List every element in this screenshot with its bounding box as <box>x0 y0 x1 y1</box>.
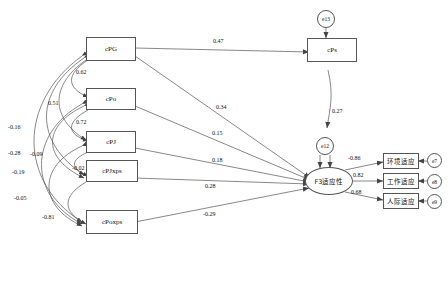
error-e8-label: e8 <box>432 179 437 185</box>
path-cPoxps-F3 <box>135 188 309 222</box>
label-cov-cPo-cPJ: 0.72 <box>76 119 87 125</box>
label-cov-cPJ-cPoxps: -0.05 <box>14 195 27 201</box>
label-cov-cPG-cPo: 0.62 <box>76 69 87 75</box>
loading-F3-ind1 <box>345 162 383 170</box>
label-path-cPG-F3: 0.34 <box>216 104 227 110</box>
label-cov-cPG-cPJxps: -0.16 <box>8 124 21 130</box>
label-path-cPJ-F3: 0.18 <box>212 157 223 163</box>
label-cov-cPo-cPoxps: -0.19 <box>12 169 25 175</box>
label-loading-ind2: 0.82 <box>353 172 364 178</box>
node-cPG[interactable]: cPG <box>86 37 136 61</box>
indicator-2-label: 工作适应 <box>387 176 415 186</box>
label-cov-cPo-cPJxps: -0.28 <box>8 150 21 156</box>
indicator-3-label: 人际适应 <box>387 196 415 206</box>
node-cPoxps[interactable]: cPoxps <box>86 210 138 234</box>
path-cPJxps-F3 <box>135 178 309 184</box>
node-error-e8[interactable]: e8 <box>427 174 442 189</box>
label-path-cPJxps-F3: 0.28 <box>205 183 216 189</box>
label-loading-ind3: 0.68 <box>351 189 362 195</box>
label-cov-cPJxps-cPoxps: -0.81 <box>42 214 55 220</box>
error-e12-label: e12 <box>321 143 329 149</box>
label-path-cPoxps-F3: -0.29 <box>203 211 216 217</box>
path-cPG-cPs <box>135 48 309 52</box>
indicator-1-label: 环境适应 <box>387 156 415 166</box>
cov-cPJxps-cPoxps <box>68 182 86 224</box>
node-cPo-label: cPo <box>106 95 117 103</box>
node-error-e12[interactable]: e12 <box>316 137 334 155</box>
error-e9-label: e9 <box>432 199 437 205</box>
label-path-cPs-F3: 0.27 <box>332 108 343 114</box>
node-cPJxps[interactable]: cPJxps <box>86 160 138 182</box>
node-cPJ[interactable]: cPJ <box>86 131 136 153</box>
label-cov-cPG-cPoxps: -0.09 <box>30 151 43 157</box>
node-F3-label: F3适应性 <box>315 176 344 186</box>
error-e7-label: e7 <box>432 158 437 164</box>
node-F3-latent[interactable]: F3适应性 <box>305 167 353 195</box>
node-indicator-renji[interactable]: 人际适应 <box>383 193 419 209</box>
path-cPs-F3 <box>327 70 331 128</box>
node-cPG-label: cPG <box>105 45 117 53</box>
label-cov-cPJ-cPJxps: -0.02 <box>72 165 85 171</box>
node-indicator-gongzuo[interactable]: 工作适应 <box>383 173 419 189</box>
node-error-e7[interactable]: e7 <box>427 153 442 168</box>
label-loading-ind1: -0.86 <box>348 155 361 161</box>
sem-path-diagram: cPG cPo cPJ cPJxps cPoxps cPs F3适应性 环境适应… <box>0 0 448 281</box>
node-cPoxps-label: cPoxps <box>102 218 122 226</box>
diagram-edges <box>0 0 448 281</box>
node-cPo[interactable]: cPo <box>86 88 136 110</box>
node-cPs-label: cPs <box>327 46 337 54</box>
node-error-e13[interactable]: e13 <box>317 10 335 28</box>
node-cPs[interactable]: cPs <box>307 38 357 62</box>
node-cPJxps-label: cPJxps <box>102 167 121 175</box>
node-error-e9[interactable]: e9 <box>427 194 442 209</box>
label-cov-cPG-cPJ: 0.51 <box>48 100 59 106</box>
cov-cPG-cPoxps <box>34 56 82 222</box>
error-e13-label: e13 <box>322 16 330 22</box>
node-cPJ-label: cPJ <box>106 138 116 146</box>
path-cPJ-F3 <box>135 148 309 182</box>
label-path-cPG-cPs: 0.47 <box>213 38 224 44</box>
label-path-cPo-F3: 0.15 <box>212 130 223 136</box>
node-indicator-huanjing[interactable]: 环境适应 <box>383 153 419 169</box>
